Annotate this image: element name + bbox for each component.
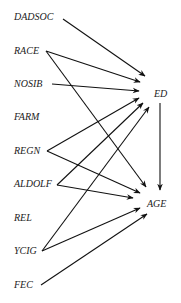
node-rel: REL xyxy=(13,212,32,223)
edge-dadsoc-to-ed xyxy=(63,19,145,76)
node-farm: FARM xyxy=(13,111,40,122)
edge-fec-to-age xyxy=(41,214,147,285)
node-age: AGE xyxy=(146,198,166,209)
edge-race-to-ed xyxy=(46,51,140,82)
edge-regn-to-ed xyxy=(47,98,139,151)
edge-ycig-to-ed xyxy=(42,107,149,251)
node-race: RACE xyxy=(13,45,39,56)
edge-aldolf-to-age xyxy=(57,185,133,198)
node-nosib: NOSIB xyxy=(13,78,42,89)
node-ycig: YCIG xyxy=(14,245,37,256)
causal-graph: DADSOCRACENOSIBFARMREGNALDOLFRELYCIGFECE… xyxy=(0,0,181,303)
edge-race-to-age xyxy=(46,51,146,187)
edge-ycig-to-age xyxy=(42,208,140,251)
nodes-layer: DADSOCRACENOSIBFARMREGNALDOLFRELYCIGFECE… xyxy=(13,11,168,290)
node-dadsoc: DADSOC xyxy=(13,11,54,22)
edge-regn-to-age xyxy=(47,151,140,193)
node-aldolf: ALDOLF xyxy=(13,178,53,189)
node-ed: ED xyxy=(153,88,168,99)
edges-layer xyxy=(41,19,160,285)
node-regn: REGN xyxy=(13,145,41,156)
edge-nosib-to-ed xyxy=(52,84,139,91)
node-fec: FEC xyxy=(13,279,33,290)
